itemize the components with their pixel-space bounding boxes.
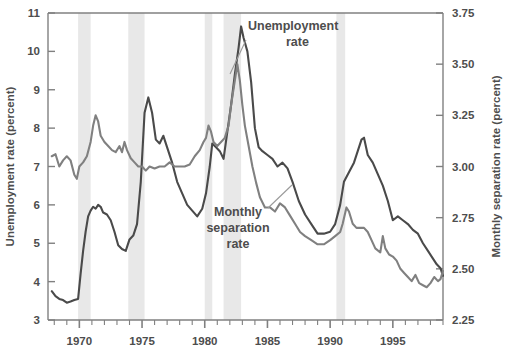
xtick-label-1980: 1980 (192, 335, 218, 347)
series-line-monthly-separation-rate (52, 64, 443, 287)
ytick-label-right-3.75: 3.75 (452, 7, 475, 19)
xtick-label-1985: 1985 (255, 335, 281, 347)
ytick-label-right-2.25: 2.25 (452, 314, 475, 326)
ytick-label-left-7: 7 (34, 161, 40, 173)
ytick-label-left-3: 3 (34, 314, 40, 326)
xtick-label-1990: 1990 (317, 335, 343, 347)
y-axis-title-right: Monthly separation rate (percent) (490, 75, 502, 257)
xtick-label-1995: 1995 (380, 335, 406, 347)
ytick-label-left-8: 8 (34, 122, 41, 134)
recession-band-5 (336, 13, 345, 320)
ytick-label-left-9: 9 (34, 84, 40, 96)
ytick-label-left-6: 6 (34, 199, 40, 211)
recession-band-4 (224, 13, 242, 320)
ytick-label-left-4: 4 (34, 276, 41, 288)
chart-canvas: 345678910112.252.502.753.003.253.503.751… (0, 0, 514, 361)
plot-frame (48, 13, 443, 320)
ytick-label-right-3.50: 3.50 (452, 58, 474, 70)
series-line-unemployment-rate (52, 26, 443, 302)
ytick-label-right-3.25: 3.25 (452, 109, 475, 121)
axis-ticks (48, 13, 443, 328)
annotation-monthly-separation-rate: Monthlyseparationrate (206, 205, 269, 251)
axis-tick-labels: 345678910112.252.502.753.003.253.503.751… (27, 7, 475, 347)
series-lines (52, 26, 443, 302)
annotation-unemployment-rate: Unemploymentrate (248, 19, 339, 49)
ytick-label-right-2.75: 2.75 (452, 212, 475, 224)
y-axis-title-left: Unemployment rate (percent) (4, 86, 16, 246)
recession-bands (78, 13, 345, 320)
ytick-label-right-3.00: 3.00 (452, 161, 474, 173)
ytick-label-left-11: 11 (28, 7, 41, 19)
ytick-label-left-10: 10 (27, 45, 40, 57)
xtick-label-1970: 1970 (67, 335, 93, 347)
chart-figure: 345678910112.252.502.753.003.253.503.751… (0, 0, 514, 361)
ytick-label-right-2.50: 2.50 (452, 263, 474, 275)
recession-band-3 (205, 13, 213, 320)
xtick-label-1975: 1975 (129, 335, 155, 347)
ytick-label-left-5: 5 (34, 237, 41, 249)
